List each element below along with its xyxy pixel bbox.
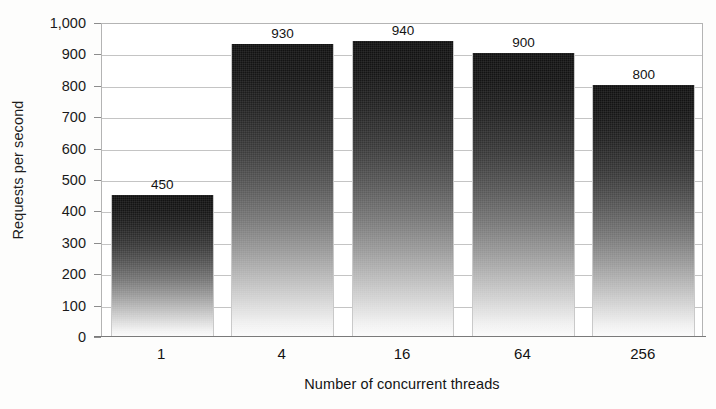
x-axis-tick-label: 256 bbox=[630, 345, 655, 362]
bar-chart: Requests per second 01002003004005006007… bbox=[0, 0, 716, 409]
bar-slot: 900 bbox=[472, 24, 575, 336]
bar-value-label: 930 bbox=[231, 26, 334, 41]
bar-value-label: 940 bbox=[352, 23, 455, 38]
bar-slot: 800 bbox=[592, 24, 695, 336]
x-axis-tick-label: 4 bbox=[277, 345, 285, 362]
bar[interactable] bbox=[231, 44, 334, 336]
bar[interactable] bbox=[111, 195, 214, 336]
bar-value-label: 450 bbox=[111, 177, 214, 192]
y-axis-tick-mark bbox=[94, 54, 101, 55]
y-axis-tick-mark bbox=[94, 306, 101, 307]
y-axis-tick-label: 700 bbox=[62, 109, 86, 125]
y-axis-tick-mark bbox=[94, 180, 101, 181]
y-axis-tick-mark bbox=[94, 23, 101, 24]
bar-value-label: 800 bbox=[592, 67, 695, 82]
x-axis-tick-labels: 141664256 bbox=[101, 345, 703, 371]
y-axis-tick-mark bbox=[94, 243, 101, 244]
y-axis-tick-marks bbox=[94, 23, 101, 337]
bar-slot: 930 bbox=[231, 24, 334, 336]
x-axis-tick-label: 1 bbox=[157, 345, 165, 362]
x-axis-tick-label: 64 bbox=[514, 345, 531, 362]
y-axis-tick-label: 200 bbox=[62, 266, 86, 282]
bar-slot: 940 bbox=[352, 24, 455, 336]
y-axis-tick-label: 300 bbox=[62, 235, 86, 251]
y-axis-tick-mark bbox=[94, 337, 101, 338]
y-axis-title-label: Requests per second bbox=[10, 101, 26, 240]
y-axis-tick-label: 800 bbox=[62, 78, 86, 94]
bar-slot: 450 bbox=[111, 24, 214, 336]
x-axis-tick-label: 16 bbox=[394, 345, 411, 362]
bar[interactable] bbox=[472, 53, 575, 336]
y-axis-tick-mark bbox=[94, 211, 101, 212]
y-axis-tick-mark bbox=[94, 149, 101, 150]
y-axis-title: Requests per second bbox=[0, 0, 36, 340]
y-axis-tick-labels: 01002003004005006007008009001,000 bbox=[36, 23, 94, 337]
y-axis-tick-label: 100 bbox=[62, 298, 86, 314]
y-axis-tick-label: 500 bbox=[62, 172, 86, 188]
bars-layer: 450930940900800 bbox=[102, 24, 702, 336]
y-axis-tick-mark bbox=[94, 117, 101, 118]
bar-value-label: 900 bbox=[472, 35, 575, 50]
y-axis-tick-label: 900 bbox=[62, 46, 86, 62]
y-axis-tick-label: 0 bbox=[78, 329, 86, 345]
y-axis-tick-label: 1,000 bbox=[50, 15, 86, 31]
x-axis-line bbox=[94, 336, 706, 337]
bar[interactable] bbox=[592, 85, 695, 336]
y-axis-tick-mark bbox=[94, 274, 101, 275]
y-axis-tick-label: 400 bbox=[62, 203, 86, 219]
x-axis-title: Number of concurrent threads bbox=[101, 376, 703, 392]
y-axis-tick-mark bbox=[94, 86, 101, 87]
bar[interactable] bbox=[352, 41, 455, 336]
plot-area: 450930940900800 bbox=[101, 23, 703, 337]
y-axis-tick-label: 600 bbox=[62, 141, 86, 157]
